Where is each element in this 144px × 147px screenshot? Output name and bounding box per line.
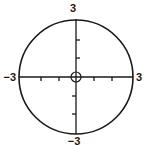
label-left: −3	[3, 71, 16, 83]
label-bottom: −3	[68, 135, 81, 147]
label-right: 3	[136, 71, 142, 83]
coordinate-circle-diagram: 3 −3 −3 3	[0, 0, 144, 147]
diagram-canvas: 3 −3 −3 3	[0, 0, 144, 147]
label-top: 3	[70, 2, 76, 14]
